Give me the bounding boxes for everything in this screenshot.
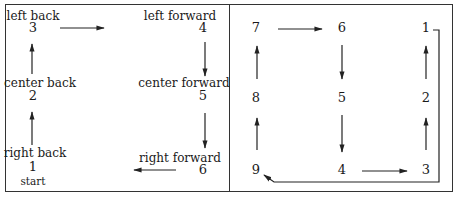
arrow-1-to-9 (264, 30, 439, 182)
rotation-arrows (0, 0, 456, 199)
